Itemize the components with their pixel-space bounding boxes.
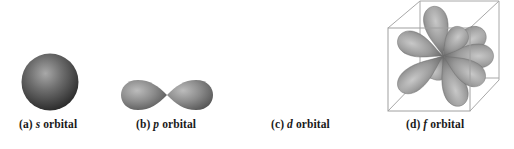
panel-p-orbital: (b) p orbital: [110, 0, 230, 149]
panel-d-orbital: (c) d orbital: [250, 0, 370, 149]
label-f-orbital: (d) f orbital: [406, 118, 464, 130]
p-lobe-right: [167, 80, 213, 110]
label-s-orbital: (a) s orbital: [19, 118, 77, 130]
d-lobe-lower-left: [253, 56, 312, 115]
d-lobe-lower-right: [288, 56, 347, 115]
label-p-orbital: (b) p orbital: [136, 118, 196, 130]
panel-s-orbital: (a) s orbital: [0, 0, 110, 149]
p-lobe-left: [121, 80, 167, 110]
panel-f-orbital: (d) f orbital: [380, 0, 514, 149]
d-lobe-upper-left: [253, 21, 312, 80]
label-d-orbital: (c) d orbital: [271, 118, 330, 130]
d-lobe-upper-right: [288, 21, 347, 80]
